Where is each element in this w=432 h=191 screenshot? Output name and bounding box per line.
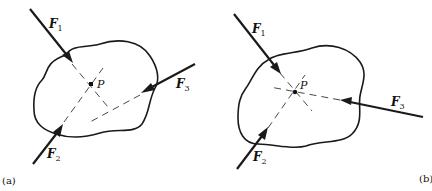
line-of-action-f3-a	[90, 95, 140, 122]
force-label-f2-a: F2	[46, 147, 61, 163]
force-label-f2-b: F2	[252, 150, 267, 166]
force-label-f3-b: F3	[390, 95, 405, 111]
force-label-f3-a: F3	[175, 77, 190, 93]
rigid-body-outline-a	[34, 41, 158, 137]
figure: F1 F2 F3 P (a) F1	[0, 0, 432, 191]
point-p-b	[293, 90, 297, 94]
arrowhead-f3-b	[340, 97, 352, 105]
caption-a: (a)	[2, 175, 16, 186]
arrowhead-f1-b	[270, 62, 281, 74]
point-label-p-a: P	[96, 78, 105, 91]
force-label-f1-a: F1	[48, 17, 63, 33]
point-p-a	[89, 82, 93, 86]
panel-a: F1 F2 F3 P (a)	[2, 9, 195, 186]
rigid-body-outline-b	[238, 46, 364, 148]
force-label-f1-b: F1	[251, 22, 266, 38]
caption-b: (b)	[419, 173, 432, 184]
force-arrow-f3-b	[350, 102, 423, 117]
point-label-p-b: P	[299, 79, 308, 92]
line-of-action-f2-a	[64, 68, 103, 122]
panel-b: F1 F2 F3 P (b)	[234, 14, 432, 184]
